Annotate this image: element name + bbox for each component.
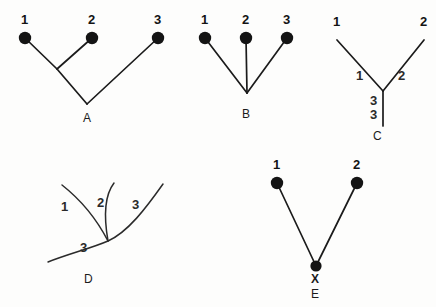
panel-d-branch-label-3-upper: 3 bbox=[132, 197, 139, 212]
tree-topology-diagram: 1 2 3 A 1 2 3 B 1 2 1 2 3 bbox=[0, 0, 436, 307]
panel-a-tip-node-3 bbox=[152, 32, 164, 44]
panel-e-root-node-label: X bbox=[311, 272, 319, 286]
panel-a-branch-tip1-to-internal bbox=[25, 38, 57, 69]
panel-a-tip-label-2: 2 bbox=[88, 12, 95, 27]
panel-e-branch-tip2-to-root bbox=[316, 183, 357, 266]
panel-c-branch-label-stem-upper: 3 bbox=[370, 93, 377, 108]
panel-c-branch-right bbox=[383, 40, 424, 91]
panel-b-tip-label-1: 1 bbox=[201, 12, 208, 27]
panel-c-branch-label-right: 2 bbox=[398, 68, 405, 83]
panel-a-branch-tip2-to-internal bbox=[57, 38, 92, 69]
panel-d-branch-label-3-lower: 3 bbox=[80, 240, 87, 255]
panel-e-tip-label-2: 2 bbox=[353, 157, 360, 172]
panel-b-branch-tip1-to-root bbox=[205, 38, 247, 93]
panel-c-tip-label-2: 2 bbox=[420, 14, 427, 29]
panel-a-branch-tip3-to-root bbox=[87, 38, 158, 104]
panel-a-tip-label-1: 1 bbox=[21, 12, 28, 27]
panel-a-letter-label: A bbox=[83, 111, 91, 125]
panel-a-tip-label-3: 3 bbox=[154, 12, 161, 27]
figure-container: 1 2 3 A 1 2 3 B 1 2 1 2 3 bbox=[0, 0, 436, 307]
panel-b-tip-label-2: 2 bbox=[242, 12, 249, 27]
panel-e-letter-label: E bbox=[311, 287, 319, 301]
panel-c-branch-label-left: 1 bbox=[356, 68, 363, 83]
panel-e-branch-tip1-to-root bbox=[277, 183, 316, 266]
panel-d-branch-label-2: 2 bbox=[97, 195, 104, 210]
panel-b: 1 2 3 B bbox=[199, 12, 293, 121]
panel-e-tip-node-1 bbox=[271, 177, 283, 189]
panel-c-letter-label: C bbox=[373, 129, 382, 143]
panel-e-root-node-x bbox=[310, 260, 321, 271]
panel-c-tip-label-1: 1 bbox=[333, 14, 340, 29]
panel-b-tip-node-1 bbox=[199, 32, 211, 44]
panel-b-letter-label: B bbox=[242, 107, 250, 121]
panel-c-branch-left bbox=[337, 40, 383, 91]
panel-d-branch-curve-2 bbox=[106, 183, 114, 241]
panel-c-branch-label-stem-lower: 3 bbox=[370, 107, 377, 122]
panel-d-branch-curve-1 bbox=[62, 185, 108, 241]
panel-a-branch-internal-to-root bbox=[57, 69, 87, 104]
panel-a-tip-node-2 bbox=[86, 32, 98, 44]
panel-d-branch-label-1: 1 bbox=[61, 199, 68, 214]
panel-a-tip-node-1 bbox=[19, 32, 31, 44]
panel-d: 1 2 3 3 D bbox=[48, 183, 163, 286]
panel-b-tip-node-3 bbox=[281, 32, 293, 44]
panel-b-branch-tip3-to-root bbox=[247, 38, 287, 93]
panel-c: 1 2 1 2 3 3 C bbox=[333, 14, 427, 143]
panel-e-tip-label-1: 1 bbox=[273, 157, 280, 172]
panel-b-branch-tip2-to-root bbox=[246, 38, 247, 93]
panel-b-tip-node-2 bbox=[240, 32, 252, 44]
panel-a: 1 2 3 A bbox=[19, 12, 164, 125]
panel-e: 1 2 X E bbox=[271, 157, 363, 301]
panel-e-tip-node-2 bbox=[351, 177, 363, 189]
panel-b-tip-label-3: 3 bbox=[283, 12, 290, 27]
panel-d-letter-label: D bbox=[84, 272, 93, 286]
